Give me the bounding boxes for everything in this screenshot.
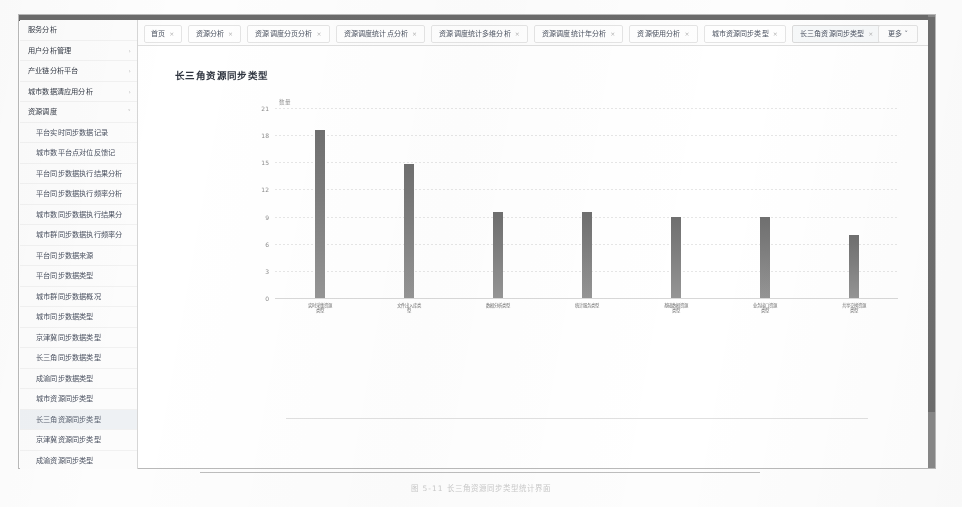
bar-3[interactable] [582, 212, 592, 298]
browser-window: 服务分析用户分析管理›产业链分析平台›城市数据清应用分析›资源调度˅平台实时同步… [18, 14, 936, 469]
tab-label: 资源分析 [196, 30, 225, 38]
sidebar-item-label: 城市数据清应用分析 [28, 87, 93, 96]
x-axis-label-2: 数据分析类型 [485, 303, 511, 308]
tab-label: 资源调度统计点分析 [344, 30, 408, 38]
sidebar-item-21[interactable]: 成渝资源同步类型 [20, 451, 137, 470]
bar-6[interactable] [849, 235, 859, 298]
tab-label: 资源调度统计年分析 [542, 30, 606, 38]
tab-3[interactable]: 资源调度统计点分析× [336, 25, 426, 43]
bar-4[interactable] [671, 217, 681, 298]
sidebar-item-label: 城市群同步数据概况 [36, 292, 101, 301]
sidebar-item-label: 城市数同步数据执行结果分 [36, 210, 122, 219]
sidebar-item-15[interactable]: 京津冀同步数据类型 [20, 328, 137, 349]
tab-label: 城市资源同步类型 [712, 30, 769, 38]
x-axis-label-5: 业务接口资源类型 [752, 303, 778, 313]
tab-2[interactable]: 资源调度分页分析× [247, 25, 329, 43]
sidebar-item-label: 城市群同步数据执行频率分 [36, 230, 122, 239]
sidebar-item-18[interactable]: 城市资源同步类型 [20, 389, 137, 410]
close-icon[interactable]: × [610, 30, 615, 37]
sidebar-item-label: 长三角资源同步类型 [36, 415, 101, 424]
sidebar-item-label: 平台同步数据执行频率分析 [36, 189, 122, 198]
main-content: 首页×资源分析×资源调度分页分析×资源调度统计点分析×资源调度统计多维分析×资源… [138, 20, 928, 468]
chevron-right-icon[interactable]: › [128, 41, 131, 62]
sidebar-item-10[interactable]: 城市群同步数据执行频率分 [20, 225, 137, 246]
card-divider [286, 418, 868, 419]
x-axis-label-4: 基础数据资源类型 [663, 303, 689, 313]
sidebar-item-2[interactable]: 产业链分析平台› [20, 61, 137, 82]
close-icon[interactable]: × [317, 30, 322, 37]
sidebar-item-4[interactable]: 资源调度˅ [20, 102, 137, 123]
bar-chart-plot: 036912151821实时采集资源类型文件出入库类型数据分析类型统计服务类型基… [138, 46, 928, 450]
bar-5[interactable] [760, 217, 770, 298]
tab-5[interactable]: 资源调度统计年分析× [534, 25, 624, 43]
scanned-page: 服务分析用户分析管理›产业链分析平台›城市数据清应用分析›资源调度˅平台实时同步… [0, 0, 962, 507]
sidebar-navigation[interactable]: 服务分析用户分析管理›产业链分析平台›城市数据清应用分析›资源调度˅平台实时同步… [20, 20, 138, 469]
sidebar-item-label: 用户分析管理 [28, 46, 71, 55]
sidebar-item-13[interactable]: 城市群同步数据概况 [20, 287, 137, 308]
sidebar-item-8[interactable]: 平台同步数据执行频率分析 [20, 184, 137, 205]
window-scrollbar-thumb[interactable] [928, 17, 935, 412]
tab-more-button[interactable]: 更多 ˅ [878, 25, 918, 43]
y-axis-tick-3: 3 [257, 267, 269, 274]
bar-0[interactable] [315, 130, 325, 298]
tab-4[interactable]: 资源调度统计多维分析× [431, 25, 528, 43]
tab-1[interactable]: 资源分析× [188, 25, 242, 43]
close-icon[interactable]: × [515, 30, 520, 37]
sidebar-item-19[interactable]: 长三角资源同步类型 [20, 410, 137, 431]
close-icon[interactable]: × [773, 30, 778, 37]
chevron-right-icon[interactable]: › [128, 61, 131, 82]
y-axis-tick-9: 9 [257, 213, 269, 220]
sidebar-item-label: 服务分析 [28, 25, 57, 34]
y-axis-tick-21: 21 [257, 105, 269, 112]
sidebar-item-9[interactable]: 城市数同步数据执行结果分 [20, 205, 137, 226]
caption-rule [200, 472, 760, 473]
sidebar-item-1[interactable]: 用户分析管理› [20, 41, 137, 62]
x-axis-label-6: 共享交换资源类型 [841, 303, 867, 313]
y-axis-tick-15: 15 [257, 159, 269, 166]
close-icon[interactable]: × [684, 30, 689, 37]
close-icon[interactable]: × [868, 30, 873, 37]
sidebar-item-20[interactable]: 京津冀资源同步类型 [20, 430, 137, 451]
y-axis-tick-18: 18 [257, 132, 269, 139]
sidebar-item-5[interactable]: 平台实时同步数据记录 [20, 123, 137, 144]
tab-label: 资源调度分页分析 [255, 30, 312, 38]
close-icon[interactable]: × [228, 30, 233, 37]
sidebar-item-7[interactable]: 平台同步数据执行结果分析 [20, 164, 137, 185]
tab-6[interactable]: 资源使用分析× [629, 25, 697, 43]
sidebar-item-label: 平台同步数据类型 [36, 271, 94, 280]
x-axis-label-3: 统计服务类型 [574, 303, 600, 308]
gridline-12 [275, 189, 898, 190]
tab-label: 资源调度统计多维分析 [439, 30, 511, 38]
tab-8[interactable]: 长三角资源同步类型× [792, 25, 882, 43]
bar-2[interactable] [493, 212, 503, 298]
bar-1[interactable] [404, 164, 414, 298]
sidebar-item-14[interactable]: 城市同步数据类型 [20, 307, 137, 328]
sidebar-item-label: 城市资源同步类型 [36, 394, 94, 403]
tab-0[interactable]: 首页× [144, 25, 182, 43]
close-icon[interactable]: × [169, 30, 174, 37]
y-axis-tick-12: 12 [257, 186, 269, 193]
sidebar-item-label: 成渝资源同步类型 [36, 456, 94, 465]
sidebar-item-6[interactable]: 城市数平台点对位反馈记 [20, 143, 137, 164]
chart-card: 长三角资源同步类型 数量 036912151821实时采集资源类型文件出入库类型… [138, 46, 928, 450]
figure-caption: 图 5-11 长三角资源同步类型统计界面 [0, 482, 962, 493]
sidebar-item-3[interactable]: 城市数据清应用分析› [20, 82, 137, 103]
sidebar-item-label: 产业链分析平台 [28, 66, 78, 75]
sidebar-item-label: 平台同步数据来源 [36, 251, 94, 260]
tab-strip[interactable]: 首页×资源分析×资源调度分页分析×资源调度统计点分析×资源调度统计多维分析×资源… [138, 20, 928, 46]
sidebar-item-11[interactable]: 平台同步数据来源 [20, 246, 137, 267]
sidebar-item-label: 平台同步数据执行结果分析 [36, 169, 122, 178]
sidebar-item-16[interactable]: 长三角同步数据类型 [20, 348, 137, 369]
chevron-down-icon[interactable]: ˅ [128, 102, 131, 123]
window-scrollbar-track[interactable] [928, 15, 935, 468]
tab-7[interactable]: 城市资源同步类型× [704, 25, 786, 43]
sidebar-item-12[interactable]: 平台同步数据类型 [20, 266, 137, 287]
sidebar-item-17[interactable]: 成渝同步数据类型 [20, 369, 137, 390]
sidebar-item-label: 城市同步数据类型 [36, 312, 94, 321]
sidebar-item-label: 京津冀资源同步类型 [36, 435, 101, 444]
close-icon[interactable]: × [412, 30, 417, 37]
chevron-right-icon[interactable]: › [128, 82, 131, 103]
sidebar-item-label: 资源调度 [28, 107, 57, 116]
sidebar-item-0[interactable]: 服务分析 [20, 20, 137, 41]
gridline-15 [275, 162, 898, 163]
